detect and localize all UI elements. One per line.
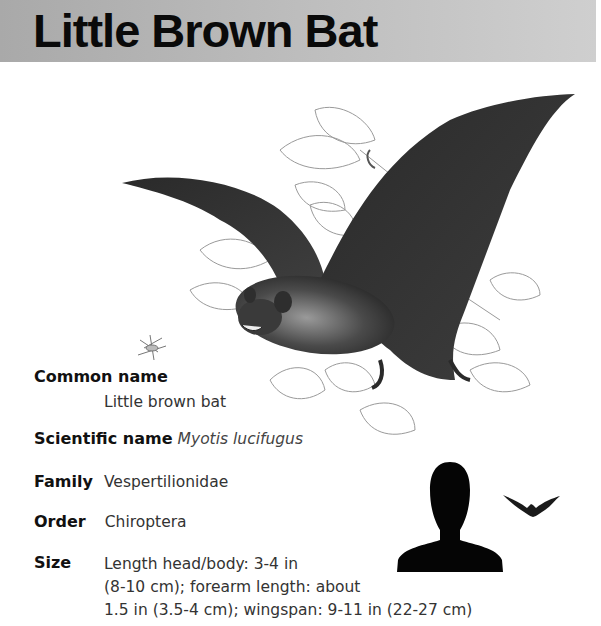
size-line-3: 1.5 in (3.5-4 cm); wingspan: 9-11 in (22…: [104, 599, 472, 622]
scientific-name-value: Myotis lucifugus: [178, 430, 303, 448]
family-label: Family: [34, 472, 93, 491]
order-value: Chiroptera: [105, 513, 187, 531]
fact-scientific-name: Scientific name Myotis lucifugus: [34, 429, 303, 448]
left-wing: [122, 177, 325, 285]
fact-order: Order Chiroptera: [34, 512, 187, 531]
title-banner: Little Brown Bat: [0, 0, 596, 62]
bat-silhouette-icon: [503, 495, 560, 517]
family-value: Vespertilionidae: [104, 473, 228, 491]
common-name-row: Little brown bat: [104, 392, 226, 411]
page-title: Little Brown Bat: [33, 2, 377, 60]
common-name-label: Common name: [34, 367, 168, 386]
fact-family: Family Vespertilionidae: [34, 472, 228, 491]
human-silhouette-icon: [397, 462, 503, 572]
insect-icon: [138, 335, 166, 360]
common-name-value: Little brown bat: [104, 393, 226, 411]
order-label: Order: [34, 512, 86, 531]
scale-comparison: [395, 460, 595, 580]
scientific-name-label: Scientific name: [34, 429, 173, 448]
size-label: Size: [34, 553, 71, 572]
fact-common-name: Common name: [34, 367, 168, 386]
